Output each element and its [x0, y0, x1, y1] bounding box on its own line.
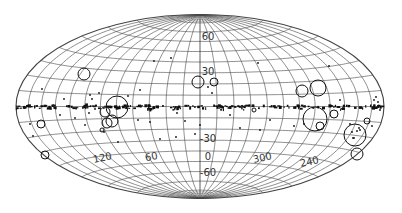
source-dot [379, 109, 381, 111]
source-circle [102, 118, 112, 128]
source-dot [218, 107, 220, 109]
latitude-label: -60 [200, 167, 216, 178]
source-dot [127, 95, 129, 97]
plane-source-cluster [16, 106, 17, 108]
source-dot [293, 125, 295, 127]
plane-source [346, 105, 348, 107]
plane-source [184, 105, 187, 107]
source-dot [137, 119, 139, 121]
source-dot [149, 121, 151, 123]
plane-source [263, 105, 265, 108]
source-dot [356, 130, 358, 132]
source-dot [32, 135, 34, 137]
plane-source [192, 105, 193, 107]
source-dot [194, 133, 196, 135]
plane-source [77, 107, 78, 108]
source-dot [94, 108, 96, 110]
plane-source-cluster [85, 103, 88, 106]
plane-source [280, 106, 281, 107]
plane-source [189, 106, 191, 109]
plane-source [252, 104, 255, 107]
plane-source [98, 107, 101, 109]
plane-source [39, 108, 41, 109]
source-dot [59, 114, 61, 116]
plane-source [226, 106, 228, 107]
source-dot [207, 86, 209, 88]
plane-source-cluster [223, 109, 224, 111]
plane-source [180, 107, 181, 109]
plane-source-cluster [53, 107, 56, 109]
source-circle [192, 76, 204, 88]
source-dot [339, 99, 341, 101]
plane-source-cluster [176, 109, 178, 111]
plane-source [271, 105, 272, 107]
source-dot [153, 60, 155, 62]
plane-source [68, 105, 71, 108]
source-circle [41, 151, 49, 159]
plane-source-cluster [173, 106, 174, 108]
source-dot [229, 114, 231, 116]
source-dot [29, 123, 31, 125]
source-dot [375, 96, 377, 98]
sky-map: 6030-300-6012060300240 [0, 0, 402, 213]
source-dot [199, 124, 201, 126]
latitude-label: 30 [202, 66, 215, 77]
plane-source [332, 105, 334, 107]
plane-source-cluster [174, 108, 176, 110]
plane-source-cluster [244, 105, 246, 108]
plane-source [18, 106, 20, 107]
source-dot [63, 98, 65, 100]
plane-source-cluster [87, 106, 88, 109]
plane-source [258, 107, 260, 109]
plane-source [20, 108, 22, 109]
plane-source [274, 107, 277, 109]
source-dot [175, 136, 177, 138]
source-dot [139, 89, 141, 91]
plane-source [194, 106, 196, 108]
source-dot [257, 62, 259, 64]
source-dot [269, 119, 271, 121]
source-circle [210, 78, 218, 86]
source-dot [371, 125, 373, 127]
plane-source-cluster [153, 106, 156, 109]
plane-source [348, 105, 351, 107]
latitude-label: 60 [202, 31, 215, 42]
plane-source-cluster [24, 106, 25, 109]
plane-source-cluster [49, 106, 51, 109]
plane-source-cluster [300, 108, 303, 110]
source-dot [359, 129, 361, 131]
source-dot [259, 129, 261, 131]
plane-source [29, 106, 32, 107]
plane-source [365, 105, 366, 108]
plane-source [200, 105, 203, 106]
source-dot [84, 124, 86, 126]
plane-source [205, 107, 206, 110]
plane-source [162, 105, 164, 107]
plane-source [133, 107, 136, 109]
plane-source-cluster [239, 106, 241, 108]
plane-source [370, 105, 372, 108]
source-circle [100, 128, 104, 132]
plane-source [76, 107, 77, 110]
source-dot [89, 94, 91, 96]
source-dot [279, 107, 281, 109]
source-dot [239, 127, 241, 129]
plane-source [95, 105, 97, 107]
plane-source [295, 106, 296, 108]
plane-source [66, 105, 68, 107]
source-circle [316, 122, 324, 130]
source-dot [351, 131, 353, 133]
plane-source [119, 106, 120, 109]
source-circle [330, 110, 338, 118]
plane-source [36, 105, 38, 107]
plane-source-cluster [147, 108, 149, 111]
plane-source [109, 106, 112, 109]
plane-source-cluster [82, 106, 84, 108]
plane-source [359, 106, 362, 109]
plane-source-cluster [215, 105, 218, 106]
source-dot [41, 88, 43, 90]
source-dot [184, 120, 186, 122]
source-dot [211, 92, 213, 94]
plane-source [34, 105, 35, 108]
plane-source-cluster [85, 106, 87, 108]
